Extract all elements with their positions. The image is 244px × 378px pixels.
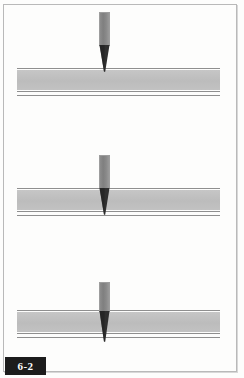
figure-page: 6-2: [0, 0, 244, 378]
workpiece-body: [17, 70, 220, 90]
workpiece-bottom-edge: [17, 91, 220, 92]
punch-tip: [99, 45, 110, 72]
workpiece-top-edge: [17, 310, 220, 311]
workpiece-body: [17, 312, 220, 332]
workpiece-top-edge: [17, 68, 220, 69]
workpiece-bottom-edge: [17, 333, 220, 334]
workpiece-body: [17, 190, 220, 210]
punch-tip-shape: [99, 188, 110, 215]
punch-tip-shape: [99, 311, 110, 342]
punch-tip: [99, 311, 110, 342]
punch-shaft: [99, 155, 110, 189]
workpiece-under-line: [17, 337, 220, 338]
workpiece-bottom-edge: [17, 211, 220, 212]
workpiece-under-line: [17, 215, 220, 216]
punch-tip-shape: [99, 45, 110, 72]
figure-number-tab: 6-2: [5, 357, 46, 375]
punch-shaft: [99, 282, 110, 312]
punch-tip: [99, 188, 110, 215]
punch-shaft: [99, 12, 110, 46]
figure-number-text: 6-2: [17, 361, 33, 372]
workpiece-under-line: [17, 95, 220, 96]
workpiece-top-edge: [17, 188, 220, 189]
